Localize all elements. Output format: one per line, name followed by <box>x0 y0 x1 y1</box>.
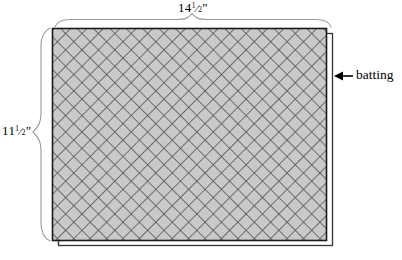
quilt-batting-diagram: 141⁄2" 111⁄2" batting <box>0 0 402 260</box>
hatched-fill <box>46 22 336 250</box>
height-brace <box>33 28 50 241</box>
width-fraction: 1⁄2 <box>192 3 203 15</box>
width-unit: " <box>202 0 208 15</box>
height-whole: 11 <box>2 123 15 138</box>
batting-arrow-icon <box>334 72 353 81</box>
height-fraction: 1⁄2 <box>15 126 26 138</box>
width-whole: 14 <box>178 0 192 15</box>
height-unit: " <box>26 123 32 138</box>
width-dimension-label: 141⁄2" <box>0 1 386 15</box>
batting-callout-label: batting <box>356 68 394 82</box>
height-dimension-label: 111⁄2" <box>2 124 32 138</box>
diagram-canvas <box>0 0 402 260</box>
width-brace <box>55 14 331 28</box>
